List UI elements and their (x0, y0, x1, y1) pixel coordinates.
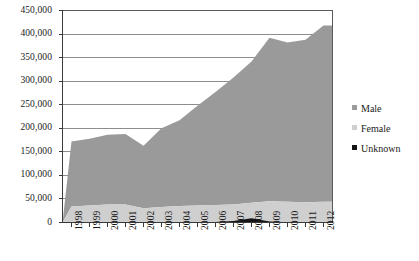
x-axis-tick-label: 1999 (93, 210, 103, 229)
legend-label: Unknown (361, 144, 400, 154)
x-axis-tick-label: 2012 (327, 210, 337, 229)
legend-item[interactable]: Unknown (352, 139, 418, 159)
legend-swatch-icon (352, 105, 357, 110)
x-axis-tick-label: 2007 (237, 210, 247, 229)
legend-swatch-icon (352, 145, 357, 150)
area-series-male (63, 26, 333, 223)
legend-item[interactable]: Female (352, 119, 418, 139)
x-axis-tick-label: 2002 (147, 210, 157, 229)
legend-label: Female (361, 124, 390, 134)
x-axis-tick-label: 2000 (111, 210, 121, 229)
stacked-area-chart: 450,000400,000350,000300,000250,000200,0… (0, 0, 419, 261)
x-axis-tick-label: 1998 (75, 210, 85, 229)
x-axis-tick-label: 2006 (219, 210, 229, 229)
x-axis-tick-label: 2010 (291, 210, 301, 229)
x-axis-tick-label: 2001 (129, 210, 139, 229)
x-axis-tick-label: 2009 (273, 210, 283, 229)
x-axis-tick-label: 2011 (309, 210, 319, 229)
chart-legend: MaleFemaleUnknown (352, 99, 418, 159)
x-axis-tick-label: 2003 (165, 210, 175, 229)
legend-label: Male (361, 104, 382, 114)
x-axis-tick-label: 2004 (183, 210, 193, 229)
x-axis-tick-label: 2005 (201, 210, 211, 229)
x-axis-tick-label: 2008 (255, 210, 265, 229)
legend-item[interactable]: Male (352, 99, 418, 119)
legend-swatch-icon (352, 125, 357, 130)
